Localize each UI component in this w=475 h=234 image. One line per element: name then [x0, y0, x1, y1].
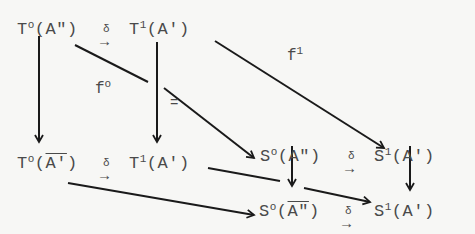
- node-base: S: [260, 147, 271, 166]
- node-base: T: [129, 154, 140, 173]
- node-arg: A': [403, 202, 424, 221]
- node-base: S: [374, 147, 385, 166]
- node-arg: A': [403, 147, 424, 166]
- label-sup: 1: [297, 45, 304, 57]
- node-sup: o: [271, 146, 278, 158]
- node-S0A2bar: So(A"): [259, 201, 320, 221]
- node-S0A2: So(A"): [260, 146, 321, 166]
- node-base: S: [259, 202, 270, 221]
- node-arg: A': [158, 154, 179, 173]
- label-f1: f1: [287, 45, 303, 65]
- label-base: f: [95, 80, 105, 98]
- node-arg: A': [158, 20, 179, 39]
- label-equals: =: [170, 95, 178, 111]
- node-S1A1: S1(A'): [374, 146, 435, 166]
- node-sup: 1: [140, 19, 147, 31]
- node-sup: 1: [140, 153, 147, 165]
- node-sup: 1: [385, 146, 392, 158]
- node-base: T: [17, 20, 28, 39]
- arrow-T0bar-S0bar: [68, 183, 254, 215]
- node-sup: 1: [385, 201, 392, 213]
- label-base: f: [287, 47, 297, 65]
- node-arg: A': [46, 154, 67, 173]
- node-arg: A": [46, 20, 67, 39]
- right-arrow-icon: →: [342, 216, 352, 233]
- node-T0A2: To(A"): [17, 19, 78, 39]
- node-S1A1b: S1(A'): [374, 201, 435, 221]
- node-arg: A": [288, 202, 309, 221]
- right-arrow-icon: →: [100, 168, 110, 185]
- arrow-T1b-S1b-part1: [208, 168, 280, 181]
- right-arrow-icon: →: [345, 161, 355, 178]
- node-T0A2bar: To(A'): [17, 153, 78, 173]
- arrow-T1b-S1b-part2: [304, 188, 370, 202]
- label-f0: fo: [95, 78, 111, 98]
- delta-arrow-top: δ →: [100, 17, 116, 36]
- node-base: T: [17, 154, 28, 173]
- node-T1A1: T1(A'): [129, 19, 190, 39]
- delta-arrow-Tbar: δ →: [100, 151, 116, 170]
- node-arg: A": [289, 147, 310, 166]
- node-sup: o: [28, 153, 35, 165]
- delta-arrow-Sbar: δ →: [342, 199, 358, 218]
- delta-arrow-S: δ →: [345, 144, 361, 163]
- node-sup: o: [28, 19, 35, 31]
- node-sup: o: [270, 201, 277, 213]
- node-T1A1b: T1(A'): [129, 153, 190, 173]
- node-base: S: [374, 202, 385, 221]
- node-base: T: [129, 20, 140, 39]
- label-sup: o: [105, 78, 112, 90]
- right-arrow-icon: →: [100, 34, 110, 51]
- arrow-f0-part1: [75, 45, 148, 82]
